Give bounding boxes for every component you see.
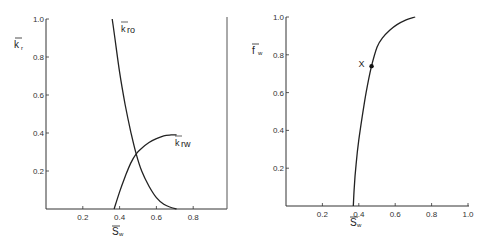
figure: 0.20.40.60.81.0 0.20.40.60.8 k r S w k r… xyxy=(0,0,487,238)
left-y-ticks: 0.20.40.60.81.0 xyxy=(33,15,49,176)
right-y-ticks: 0.20.40.60.81.0 xyxy=(273,13,289,173)
right-chart: 0.20.40.60.81.0 0.20.40.60.81.0 f w S w … xyxy=(252,13,474,228)
krw-label: k rw xyxy=(175,136,191,149)
svg-text:w: w xyxy=(257,50,263,56)
fw-curve xyxy=(353,17,415,206)
krw-curve xyxy=(114,135,177,209)
x-tick-label: 0.4 xyxy=(114,213,126,222)
y-tick-label: 0.6 xyxy=(33,91,45,100)
x-tick-label: 0.6 xyxy=(390,210,402,219)
y-tick-label: 0.2 xyxy=(33,167,45,176)
y-tick-label: 0.4 xyxy=(33,129,45,138)
svg-text:w: w xyxy=(118,231,124,237)
y-tick-label: 0.6 xyxy=(273,89,285,98)
x-tick-label: 0.6 xyxy=(151,213,163,222)
svg-text:k: k xyxy=(14,39,20,50)
svg-text:k: k xyxy=(121,24,126,34)
left-x-axis-label: S w xyxy=(112,226,124,237)
svg-text:rw: rw xyxy=(181,139,191,149)
x-tick-label: 0.8 xyxy=(188,213,200,222)
svg-text:S: S xyxy=(350,217,357,228)
y-tick-label: 0.8 xyxy=(33,53,45,62)
left-x-ticks: 0.20.40.60.8 xyxy=(77,206,199,222)
x-tick-label: 0.2 xyxy=(317,210,329,219)
x-tick-label: 0.8 xyxy=(426,210,438,219)
y-tick-label: 1.0 xyxy=(273,13,285,22)
right-x-ticks: 0.20.40.60.81.0 xyxy=(317,203,474,219)
kro-label: k ro xyxy=(121,22,135,35)
y-tick-label: 0.8 xyxy=(273,51,285,60)
left-chart: 0.20.40.60.81.0 0.20.40.60.8 k r S w k r… xyxy=(14,15,227,237)
y-tick-label: 1.0 xyxy=(33,15,45,24)
left-y-axis-label: k r xyxy=(14,38,23,51)
right-y-axis-label: f w xyxy=(252,44,263,56)
x-tick-label: 1.0 xyxy=(462,210,474,219)
point-x-label: X xyxy=(359,59,365,69)
svg-text:r: r xyxy=(21,45,23,51)
svg-text:w: w xyxy=(356,222,362,228)
y-tick-label: 0.2 xyxy=(273,164,285,173)
kro-curve xyxy=(112,19,176,209)
svg-text:ro: ro xyxy=(127,25,135,35)
svg-text:f: f xyxy=(252,45,255,56)
svg-text:S: S xyxy=(112,226,119,237)
svg-text:k: k xyxy=(175,138,180,148)
x-tick-label: 0.2 xyxy=(77,213,89,222)
point-x-marker xyxy=(369,64,373,68)
y-tick-label: 0.4 xyxy=(273,126,285,135)
